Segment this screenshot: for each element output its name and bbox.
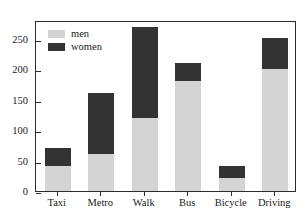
bar-segment-women [132,27,158,118]
bar-stack [175,63,201,191]
x-axis-tick [231,192,232,196]
y-axis-tick [36,163,41,164]
x-axis-tick-label-driving: Driving [253,197,297,208]
y-axis-tick [36,71,41,72]
legend-item-women: women [48,42,102,52]
legend-swatch-men [48,30,65,38]
y-axis-tick [36,41,41,42]
y-axis-tick-label: 100 [12,126,28,136]
x-axis-tick-label-bicycle: Bicycle [209,197,253,208]
x-axis: TaxiMetroWalkBusBicycleDriving [35,192,296,216]
bar-segment-women [88,93,114,154]
legend-swatch-women [48,43,65,51]
bar-stack [132,27,158,191]
x-axis-tick-label-walk: Walk [122,197,166,208]
y-axis-tick [36,132,41,133]
bar-segment-men [45,166,71,191]
x-axis-tick [187,192,188,196]
legend-label-men: men [71,29,89,39]
bar-stack [219,166,245,191]
bar-segment-men [262,69,288,191]
y-axis-tick-label: 250 [12,35,28,45]
bar-segment-men [219,178,245,191]
bar-segment-women [45,148,71,166]
y-axis-tick-label: 150 [12,96,28,106]
x-axis-tick [144,192,145,196]
x-axis-tick-label-bus: Bus [166,197,210,208]
bar-segment-women [262,38,288,69]
chart-legend: menwomen [44,27,106,55]
y-axis-tick-label: 50 [18,157,29,167]
y-axis-tick [36,102,41,103]
y-axis-tick-label: 200 [12,65,28,75]
x-axis-tick [100,192,101,196]
plot-frame: menwomen [35,21,296,192]
bar-stack [262,38,288,191]
bar-chart-figure: 050100150200250 menwomen TaxiMetroWalkBu… [0,0,307,218]
legend-item-men: men [48,29,102,39]
x-axis-tick [274,192,275,196]
bar-segment-men [88,154,114,191]
x-axis-tick [57,192,58,196]
bar-segment-men [175,81,201,191]
bar-stack [88,93,114,191]
bar-segment-women [175,63,201,81]
x-axis-tick-label-taxi: Taxi [35,197,79,208]
y-axis-tick-label: 0 [23,187,28,197]
x-axis-tick-label-metro: Metro [79,197,123,208]
bar-segment-women [219,166,245,178]
legend-label-women: women [71,42,102,52]
y-axis: 050100150200250 [0,21,35,192]
bar-stack [45,148,71,191]
bar-segment-men [132,118,158,191]
